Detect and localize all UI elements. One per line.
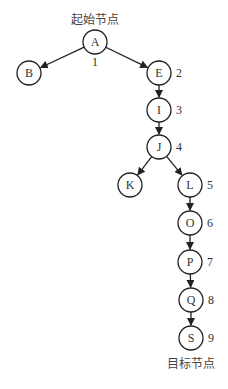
node-label: E — [155, 66, 162, 80]
goal-node-caption: 目标节点 — [167, 357, 215, 371]
visit-order-number: 5 — [207, 178, 213, 192]
node-label: O — [186, 216, 195, 230]
node-label: B — [25, 66, 33, 80]
node-label: S — [188, 331, 195, 345]
visit-order-number: 1 — [92, 55, 98, 69]
visit-order-number: 2 — [176, 66, 182, 80]
node-label: Q — [187, 293, 196, 307]
node-J: J — [147, 135, 171, 159]
visit-order-number: 6 — [207, 216, 213, 230]
node-label: P — [187, 255, 194, 269]
node-label: A — [91, 35, 100, 49]
node-A: A — [83, 30, 107, 54]
visit-order-number: 7 — [207, 255, 213, 269]
visit-order-number: 8 — [208, 293, 214, 307]
node-I: I — [147, 98, 171, 122]
edge-J-L — [167, 156, 182, 175]
visit-order-number: 3 — [176, 103, 182, 117]
search-tree-diagram: 1AB2E3I4JK5L6O7P8Q9S 起始节点 目标节点 — [0, 0, 228, 389]
node-label: L — [186, 178, 193, 192]
start-node-caption: 起始节点 — [71, 13, 119, 27]
nodes: 1AB2E3I4JK5L6O7P8Q9S — [17, 30, 214, 350]
node-O: O — [178, 211, 202, 235]
node-B: B — [17, 61, 41, 85]
edges — [41, 47, 191, 325]
edge-A-E — [106, 47, 148, 67]
node-E: E — [147, 61, 171, 85]
node-label: K — [126, 178, 135, 192]
node-Q: Q — [179, 288, 203, 312]
node-label: J — [157, 140, 162, 154]
node-L: L — [178, 173, 202, 197]
visit-order-number: 9 — [208, 331, 214, 345]
visit-order-number: 4 — [176, 140, 182, 154]
node-P: P — [178, 250, 202, 274]
edge-J-K — [138, 157, 152, 175]
node-K: K — [118, 173, 142, 197]
node-S: S — [179, 326, 203, 350]
node-label: I — [157, 103, 161, 117]
edge-A-B — [41, 47, 84, 67]
